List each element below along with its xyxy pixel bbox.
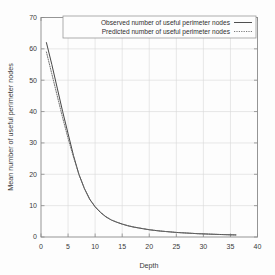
x-tick-label: 20 [145,243,153,250]
y-tick-label: 0 [33,233,37,240]
chart-figure: 0510152025303540010203040506070 Depth Me… [0,0,275,275]
x-tick-label: 10 [91,243,99,250]
x-tick-label: 30 [199,243,207,250]
y-axis-label: Mean number of useful perimeter nodes [6,63,15,191]
y-tick-label: 20 [29,171,37,178]
x-tick-label: 15 [118,243,126,250]
y-tick-label: 30 [29,139,37,146]
chart-legend: Observed number of useful perimeter node… [63,16,256,38]
x-tick-label: 35 [227,243,235,250]
y-tick-label: 60 [29,45,37,52]
x-tick-label: 0 [39,243,43,250]
legend-label-observed: Observed number of useful perimeter node… [101,19,231,27]
x-tick-label: 5 [66,243,70,250]
x-axis-label: Depth [139,261,158,270]
y-tick-label: 50 [29,77,37,84]
x-tick-label: 25 [172,243,180,250]
legend-label-predicted: Predicted number of useful perimeter nod… [102,28,231,36]
y-tick-label: 70 [29,14,37,21]
line-chart: 0510152025303540010203040506070 Depth Me… [0,0,275,275]
y-tick-label: 10 [29,202,37,209]
x-tick-label: 40 [254,243,262,250]
y-tick-label: 40 [29,108,37,115]
